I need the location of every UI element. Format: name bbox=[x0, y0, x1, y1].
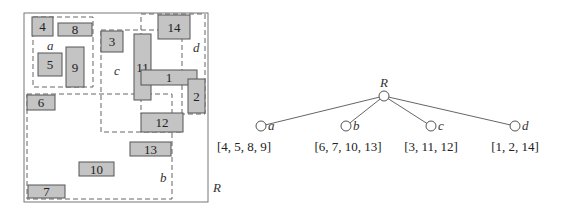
data-rect-label: 12 bbox=[156, 115, 169, 130]
tree-node-entries: [1, 2, 14] bbox=[491, 139, 539, 154]
region-label-d: d bbox=[193, 40, 200, 55]
tree-node-label: a bbox=[268, 118, 275, 133]
tree-node-entries: [3, 11, 12] bbox=[404, 139, 458, 154]
tree-node-a bbox=[256, 121, 266, 131]
data-rect-label: 5 bbox=[47, 57, 54, 72]
tree-node-entries: [4, 5, 8, 9] bbox=[217, 139, 271, 154]
region-label-b: b bbox=[160, 170, 167, 185]
data-rect-label: 14 bbox=[168, 20, 182, 35]
data-rect-label: 3 bbox=[109, 34, 116, 49]
data-rect-label: 2 bbox=[193, 89, 200, 104]
data-rect-label: 13 bbox=[144, 142, 157, 157]
tree-edge-d bbox=[384, 96, 515, 126]
tree-root-node bbox=[379, 91, 389, 101]
region-label-c: c bbox=[114, 63, 120, 78]
tree-node-c bbox=[426, 121, 436, 131]
data-rectangles: 4835911141261213107 bbox=[27, 15, 205, 199]
data-rect-label: 7 bbox=[43, 184, 50, 199]
data-rect-label: 10 bbox=[90, 162, 103, 177]
tree-node-label: d bbox=[522, 118, 529, 133]
outer-region-label: R bbox=[212, 180, 221, 195]
tree-root-label: R bbox=[379, 75, 388, 90]
tree-node-entries: [6, 7, 10, 13] bbox=[314, 139, 381, 154]
data-rect-label: 4 bbox=[39, 19, 46, 34]
region-label-a: a bbox=[47, 38, 54, 53]
tree-node-d bbox=[510, 121, 520, 131]
data-rect-label: 9 bbox=[72, 60, 79, 75]
r-tree-diagram: R abcd 4835911141261213107 Ra[4, 5, 8, 9… bbox=[0, 0, 564, 215]
r-tree: Ra[4, 5, 8, 9]b[6, 7, 10, 13]c[3, 11, 12… bbox=[217, 75, 539, 154]
tree-node-b bbox=[341, 121, 351, 131]
data-rect-label: 8 bbox=[72, 22, 79, 37]
tree-node-label: b bbox=[353, 118, 360, 133]
tree-node-label: c bbox=[438, 118, 444, 133]
tree-edge-c bbox=[384, 96, 431, 126]
data-rect-label: 1 bbox=[166, 70, 173, 85]
data-rect-label: 6 bbox=[38, 95, 45, 110]
